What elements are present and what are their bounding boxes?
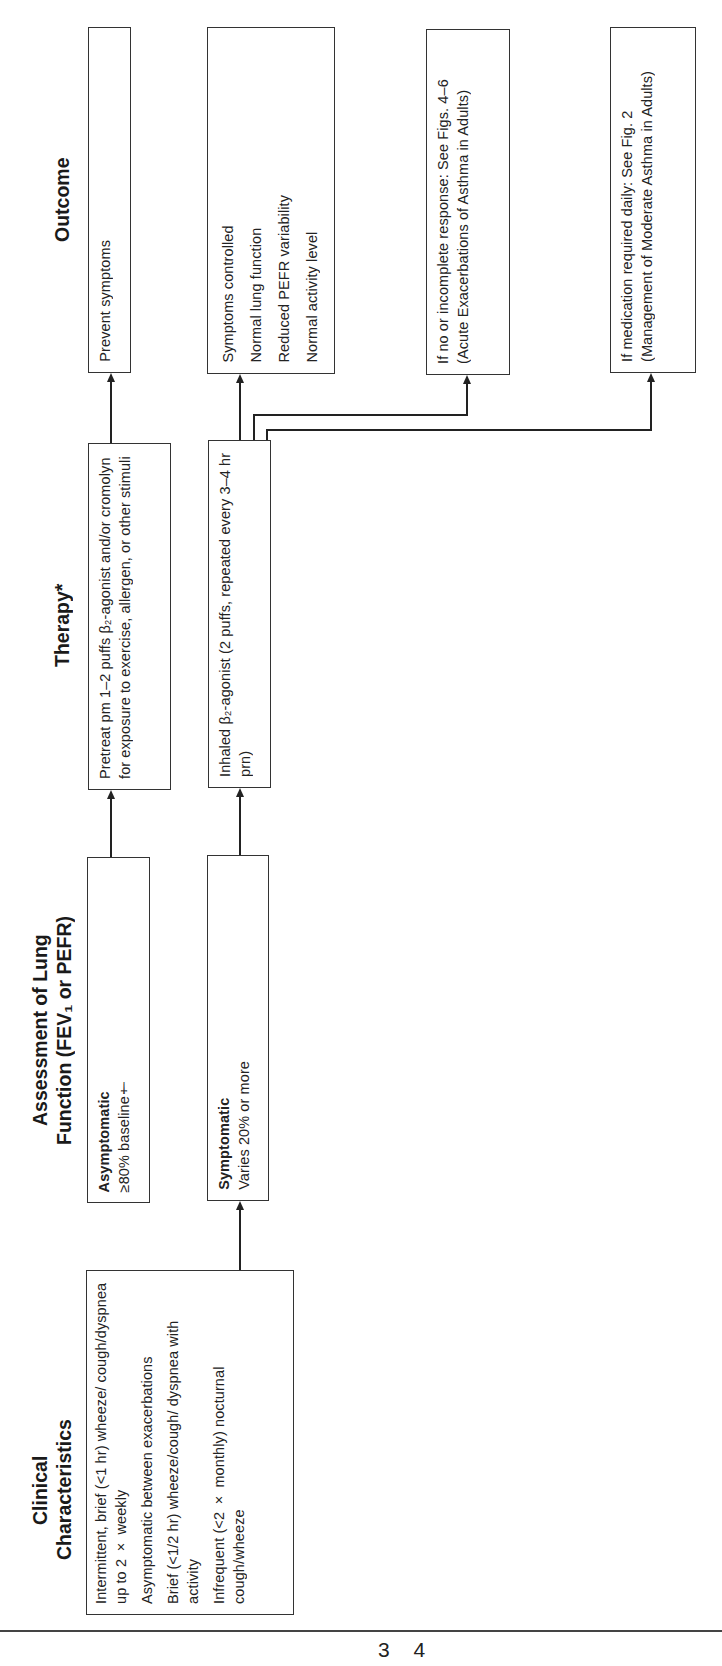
therapy-text: Inhaled β₂-agonist (2 puffs, repeated ev…	[209, 441, 261, 787]
outcome-item: Normal activity level	[298, 195, 326, 363]
connector-inhaled-to-incomplete	[253, 414, 255, 440]
arrowhead-icon	[236, 788, 244, 797]
assessment-text: Varies 20% or more	[236, 1061, 252, 1190]
clinical-item: Brief (<1/2 hr) wheeze/cough/ dyspnea wi…	[163, 1281, 203, 1604]
connector-asymptomatic-to-pretreat	[110, 798, 112, 857]
outcome-text: If no or incomplete response: See Figs. …	[427, 30, 479, 374]
header-outcome: Outcome	[50, 130, 74, 270]
arrowhead-icon	[463, 375, 471, 384]
clinical-item: Infrequent (<2 × monthly) nocturnal coug…	[209, 1281, 249, 1604]
header-line: Outcome	[51, 158, 73, 243]
header-line: Characteristics	[53, 1420, 75, 1561]
clinical-characteristics-box: Intermittent, brief (<1 hr) wheeze/ coug…	[86, 1270, 294, 1615]
clinical-item: Intermittent, brief (<1 hr) wheeze/ coug…	[91, 1281, 131, 1604]
outcome-text: Prevent symptoms	[89, 230, 121, 372]
assessment-asymptomatic-box: Asymptomatic ≥80% baseline†	[87, 857, 150, 1203]
connector-inhaled-to-incomplete	[466, 383, 468, 416]
header-line: Therapy*	[51, 583, 73, 666]
arrowhead-icon	[107, 373, 115, 382]
arrowhead-icon	[107, 790, 115, 799]
outcome-item: Reduced PEFR variability	[270, 195, 298, 363]
header-line: Clinical	[29, 1455, 51, 1524]
connector-inhaled-to-controlled	[239, 382, 241, 440]
header-clinical-characteristics: Clinical Characteristics	[28, 1380, 76, 1600]
outcome-item: Normal lung function	[242, 195, 270, 363]
outcome-symptoms-controlled-box: Symptoms controlled Normal lung function…	[207, 27, 335, 374]
outcome-prevent-symptoms-box: Prevent symptoms	[88, 27, 131, 373]
assessment-title: Symptomatic	[216, 1098, 232, 1190]
connector-inhaled-to-incomplete	[253, 414, 468, 416]
assessment-text: ≥80% baseline†	[116, 1080, 132, 1192]
connector-inhaled-to-medication-daily	[650, 381, 652, 431]
therapy-text: Pretreat pm 1–2 puffs β₂-agonist and/or …	[89, 444, 141, 789]
arrowhead-icon	[236, 374, 244, 383]
outcome-medication-daily-box: If medication required daily: See Fig. 2…	[610, 27, 696, 373]
header-line: Function (FEV₁ or PEFR)	[53, 915, 75, 1144]
header-therapy: Therapy*	[50, 555, 74, 695]
arrowhead-icon	[647, 373, 655, 382]
outcome-incomplete-response-box: If no or incomplete response: See Figs. …	[426, 29, 510, 375]
connector-clinical-to-symptomatic	[239, 1210, 241, 1270]
connector-pretreat-to-prevent	[110, 381, 112, 443]
footer-rule	[0, 1630, 722, 1632]
header-assessment-lung-function: Assessment of Lung Function (FEV₁ or PEF…	[28, 880, 76, 1180]
page-number: 3 4	[378, 1638, 425, 1662]
assessment-title: Asymptomatic	[96, 1091, 112, 1192]
arrowhead-icon	[236, 1201, 244, 1210]
outcome-text: If medication required daily: See Fig. 2…	[611, 28, 663, 372]
therapy-pretreat-box: Pretreat pm 1–2 puffs β₂-agonist and/or …	[88, 443, 171, 790]
therapy-inhaled-agonist-box: Inhaled β₂-agonist (2 puffs, repeated ev…	[208, 440, 271, 788]
outcome-item: Symptoms controlled	[214, 195, 242, 363]
header-line: Assessment of Lung	[29, 934, 51, 1126]
connector-symptomatic-to-inhaled	[239, 796, 241, 855]
connector-inhaled-to-medication-daily	[266, 429, 652, 431]
assessment-symptomatic-box: Symptomatic Varies 20% or more	[207, 855, 269, 1201]
clinical-item: Asymptomatic between exacerbations	[137, 1281, 157, 1604]
